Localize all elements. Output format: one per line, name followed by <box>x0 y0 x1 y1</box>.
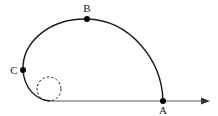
point-c <box>20 67 26 73</box>
arrow-head-icon <box>201 98 210 105</box>
label-b: B <box>83 2 90 14</box>
label-c: C <box>10 64 17 76</box>
point-b <box>84 16 90 22</box>
label-a: A <box>159 104 167 116</box>
diagram: A B C <box>0 0 218 116</box>
dashed-circle <box>37 77 61 101</box>
spiral-curve <box>23 19 163 101</box>
